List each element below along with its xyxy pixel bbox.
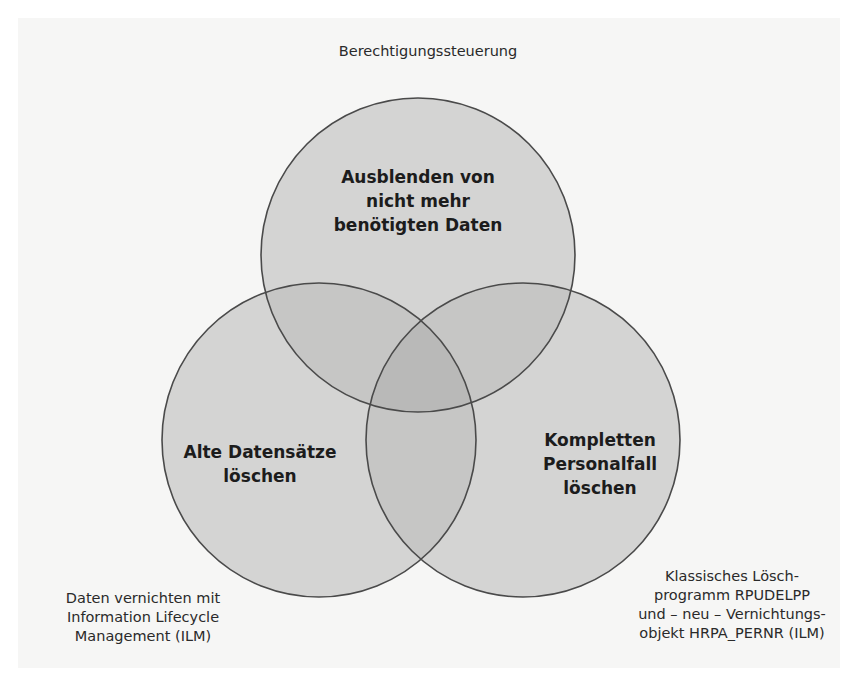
label-left-outer: Daten vernichten mit Information Lifecyc… (28, 589, 258, 646)
label-top-inner: Ausblenden von nicht mehr benötigten Dat… (318, 165, 518, 237)
label-right-outer: Klassisches Lösch- programm RPUDELPP und… (612, 567, 852, 643)
label-left-inner: Alte Datensätze löschen (165, 440, 355, 488)
label-right-inner: Kompletten Personalfall löschen (510, 428, 690, 500)
label-top-outer: Berechtigungssteuerung (318, 42, 538, 61)
